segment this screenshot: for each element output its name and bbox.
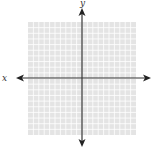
coordinate-plane (0, 0, 156, 149)
x-axis-label: x (2, 74, 7, 83)
y-axis-label: y (80, 0, 85, 8)
